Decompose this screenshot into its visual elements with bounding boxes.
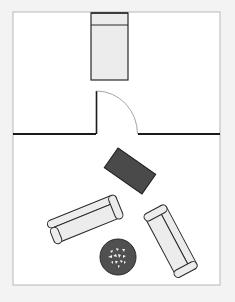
bed-frame: [91, 13, 128, 80]
bed[interactable]: [91, 13, 128, 80]
round-rug[interactable]: [100, 239, 136, 275]
rug-circle: [100, 239, 136, 275]
floor-plan-canvas: [0, 0, 235, 302]
floor-plan-svg: [0, 0, 235, 302]
